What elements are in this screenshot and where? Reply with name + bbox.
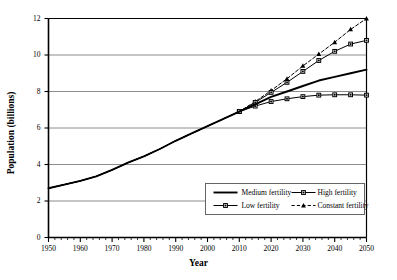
x-tick-label: 1960	[65, 244, 95, 253]
x-tick-label: 2040	[320, 244, 350, 253]
y-tick-label: 4	[25, 160, 41, 169]
x-tick-label: 1990	[161, 244, 191, 253]
legend-label-low-fertility: Low fertility	[242, 201, 280, 210]
y-tick-label: 12	[25, 14, 41, 23]
x-tick-label: 2050	[352, 244, 382, 253]
legend-label-medium-fertility: Medium fertility	[242, 188, 292, 197]
x-tick-label: 1970	[97, 244, 127, 253]
y-tick-label: 8	[25, 87, 41, 96]
x-tick-label: 2030	[288, 244, 318, 253]
population-projection-chart: Population (billions) Year 0246810121950…	[0, 0, 397, 280]
x-tick-label: 2000	[193, 244, 223, 253]
plot-area	[0, 0, 397, 280]
legend-label-high-fertility: High fertility	[318, 188, 357, 197]
x-tick-label: 1980	[129, 244, 159, 253]
x-tick-label: 1950	[34, 244, 64, 253]
y-tick-label: 10	[25, 50, 41, 59]
y-tick-label: 6	[25, 123, 41, 132]
y-tick-label: 2	[25, 196, 41, 205]
y-tick-label: 0	[25, 233, 41, 242]
x-tick-label: 2020	[256, 244, 286, 253]
x-tick-label: 2010	[224, 244, 254, 253]
legend-label-constant-fertility: Constant fertility	[318, 201, 369, 210]
